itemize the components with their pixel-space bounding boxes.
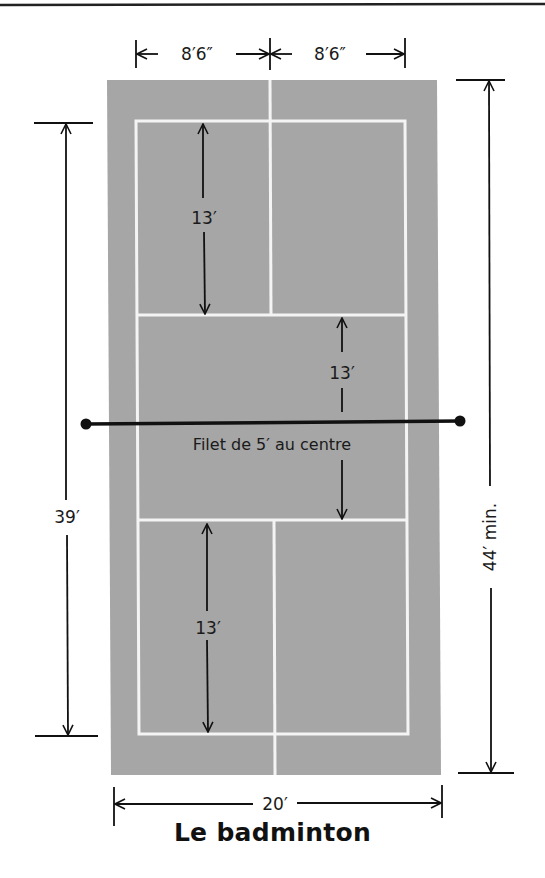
net-label: Filet de 5′ au centre — [193, 435, 351, 454]
net-post-left — [81, 419, 92, 430]
dimension-inner-length — [34, 123, 98, 736]
net-post-right — [455, 416, 466, 427]
half-width-left-label: 8′6″ — [181, 44, 213, 64]
top-rule — [0, 4, 545, 5]
zone-middle-label: 13′ — [329, 363, 355, 383]
inner-length-label: 39′ — [54, 507, 80, 527]
dimension-half-widths — [136, 38, 405, 70]
diagram-title: Le badminton — [0, 818, 545, 847]
zone-top-label: 13′ — [191, 208, 217, 228]
total-width-label: 20′ — [262, 794, 288, 814]
badminton-court-diagram: 8′6″ 8′6″ 39′ 44′ min. 20′ 13′ 13′ 13′ — [0, 0, 545, 878]
dimension-total-length — [456, 80, 514, 773]
zone-bottom-label: 13′ — [195, 618, 221, 638]
half-width-right-label: 8′6″ — [314, 44, 346, 64]
total-length-label: 44′ min. — [480, 503, 500, 571]
